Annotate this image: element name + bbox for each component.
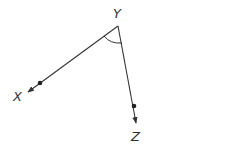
label-y: Y <box>113 6 122 21</box>
point-x <box>38 81 43 86</box>
label-x: X <box>12 89 23 104</box>
point-z <box>132 104 137 109</box>
angle-arc <box>104 36 122 43</box>
label-z: Z <box>130 129 141 144</box>
angle-diagram: Y X Z <box>0 0 237 158</box>
ray-yz <box>118 26 136 123</box>
